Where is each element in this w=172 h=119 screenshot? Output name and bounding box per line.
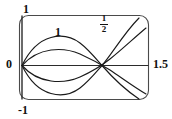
y-axis-min-label: -1 <box>18 104 28 116</box>
plot-figure: 1 0 -1 1.5 1 1 2 <box>0 0 172 119</box>
plot-svg <box>0 0 172 119</box>
fraction-denominator: 2 <box>101 25 108 34</box>
curve-label-one: 1 <box>55 26 61 38</box>
x-axis-max-label: 1.5 <box>153 58 168 70</box>
fraction-numerator: 1 <box>101 14 108 23</box>
y-axis-zero-label: 0 <box>6 58 12 70</box>
curve-label-one-half: 1 2 <box>100 14 108 34</box>
y-axis-max-label: 1 <box>23 3 29 15</box>
